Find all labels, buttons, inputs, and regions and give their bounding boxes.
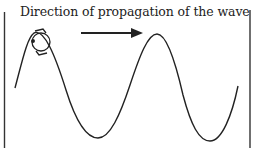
propagation-arrow-icon (81, 28, 143, 38)
wave-diagram (0, 0, 254, 156)
wave-curve (15, 32, 238, 141)
